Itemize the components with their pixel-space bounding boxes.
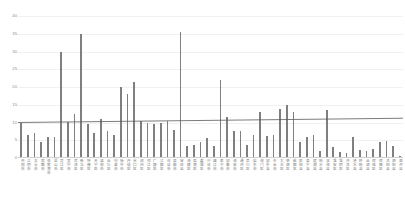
x-axis-tick-text: 江阴市 bbox=[26, 159, 30, 171]
x-axis-tick-text: 海陵区 bbox=[185, 159, 189, 171]
x-axis-tick-text: 昆山市 bbox=[53, 159, 57, 171]
x-axis-tick-text: 金湖县 bbox=[365, 159, 369, 171]
x-axis-tick-text: 沭阳县 bbox=[385, 159, 389, 171]
x-axis-tick-text: 通州区 bbox=[239, 159, 243, 171]
x-axis-tick-text: 姜堰区 bbox=[199, 159, 203, 171]
x-axis-tick-text: 扬中市 bbox=[119, 159, 123, 171]
y-axis-tick-label: 35 bbox=[12, 32, 17, 36]
x-axis-tick-text: 建湖县 bbox=[312, 159, 316, 171]
x-axis-tick-text: 如东县 bbox=[265, 159, 269, 171]
x-axis-tick-text: 太仓市 bbox=[33, 159, 37, 171]
y-axis-tick-label: 10 bbox=[12, 120, 17, 124]
x-axis-tick-text: 东台市 bbox=[272, 159, 276, 171]
x-axis-tick-text: 宿豫区 bbox=[378, 159, 382, 171]
x-axis-tick-text: 仪征市 bbox=[166, 159, 170, 171]
x-axis-tick-text: 句容市 bbox=[112, 159, 116, 171]
x-axis-tick-text: 邗江区 bbox=[146, 159, 150, 171]
x-axis-tick-text: 宜兴市 bbox=[66, 159, 70, 171]
x-axis-tick-text: 淮安区 bbox=[331, 159, 335, 171]
x-axis-tick-text: 阜宁县 bbox=[305, 159, 309, 171]
x-axis-tick-text: 泗阳县 bbox=[391, 159, 395, 171]
x-axis-tick-text: 金坛区 bbox=[106, 159, 110, 171]
x-axis-tick-text: 响水县 bbox=[318, 159, 322, 171]
x-axis-tick-text: 天宁区 bbox=[93, 159, 97, 171]
x-axis-tick-text: 广陵区 bbox=[152, 159, 156, 171]
y-axis-tick-label: 15 bbox=[12, 103, 17, 107]
x-axis-tick-text: 滨海县 bbox=[325, 159, 329, 171]
x-axis-tick-text: 宝应县 bbox=[179, 159, 183, 171]
x-axis-tick-text: 涟水县 bbox=[351, 159, 355, 171]
y-axis-tick-label: 0 bbox=[15, 156, 17, 160]
x-axis-tick-text: 泰兴市 bbox=[219, 159, 223, 171]
x-axis-tick-text: 溧阳市 bbox=[99, 159, 103, 171]
x-axis-tick-text: 张家港市 bbox=[46, 159, 50, 175]
x-axis-tick-text: 京口区 bbox=[132, 159, 136, 171]
x-axis-tick-text: 洪泽区 bbox=[345, 159, 349, 171]
x-axis-tick-text: 武进区 bbox=[73, 159, 77, 171]
x-axis-tick-text: 高港区 bbox=[192, 159, 196, 171]
y-axis-tick-label: 5 bbox=[15, 138, 17, 142]
x-axis-tick-text: 盐都区 bbox=[292, 159, 296, 171]
x-axis-tick-text: 常熟市 bbox=[39, 159, 43, 171]
plot-area bbox=[18, 16, 403, 158]
x-axis-tick-text: 新北区 bbox=[79, 159, 83, 171]
x-axis-tick-text: 丹徒区 bbox=[126, 159, 130, 171]
x-axis-tick-text: 崇川区 bbox=[245, 159, 249, 171]
x-axis-tick-text: 泗洪县 bbox=[398, 159, 402, 171]
x-axis-tick-text: 靖江市 bbox=[212, 159, 216, 171]
y-axis-tick-label: 25 bbox=[12, 67, 17, 71]
x-axis-tick-text: 润州区 bbox=[139, 159, 143, 171]
x-axis-tick-text: 海门区 bbox=[258, 159, 262, 171]
x-axis-tick-text: 宿城区 bbox=[371, 159, 375, 171]
bar-chart: 0510152025303540 丹阳市江阴市太仓市常熟市张家港市昆山市吴江区宜… bbox=[0, 0, 405, 209]
x-axis-tick-text: 高邮市 bbox=[172, 159, 176, 171]
x-axis-tick-text: 江都区 bbox=[159, 159, 163, 171]
x-axis-tick-text: 如皋市 bbox=[225, 159, 229, 171]
x-axis-tick-text: 吴江区 bbox=[59, 159, 63, 171]
x-axis-tick-text: 启东市 bbox=[252, 159, 256, 171]
x-axis-tick-text: 淮阴区 bbox=[338, 159, 342, 171]
x-axis-tick-text: 亭湖区 bbox=[285, 159, 289, 171]
x-axis-tick-text: 丹阳市 bbox=[19, 159, 23, 171]
x-axis-line bbox=[18, 157, 403, 158]
x-axis-tick-text: 大丰区 bbox=[278, 159, 282, 171]
x-axis: 丹阳市江阴市太仓市常熟市张家港市昆山市吴江区宜兴市武进区新北区钟楼区天宁区溧阳市… bbox=[18, 159, 403, 209]
x-axis-tick-text: 钟楼区 bbox=[86, 159, 90, 171]
x-axis-tick-text: 盱眙县 bbox=[358, 159, 362, 171]
y-axis: 0510152025303540 bbox=[0, 0, 17, 209]
y-axis-tick-label: 30 bbox=[12, 49, 17, 53]
x-axis-tick-text: 射阳县 bbox=[298, 159, 302, 171]
y-axis-tick-label: 20 bbox=[12, 85, 17, 89]
y-axis-tick-label: 40 bbox=[12, 14, 17, 18]
x-axis-tick-text: 海安市 bbox=[232, 159, 236, 171]
trend-line bbox=[18, 16, 403, 158]
x-axis-tick-text: 兴化市 bbox=[205, 159, 209, 171]
